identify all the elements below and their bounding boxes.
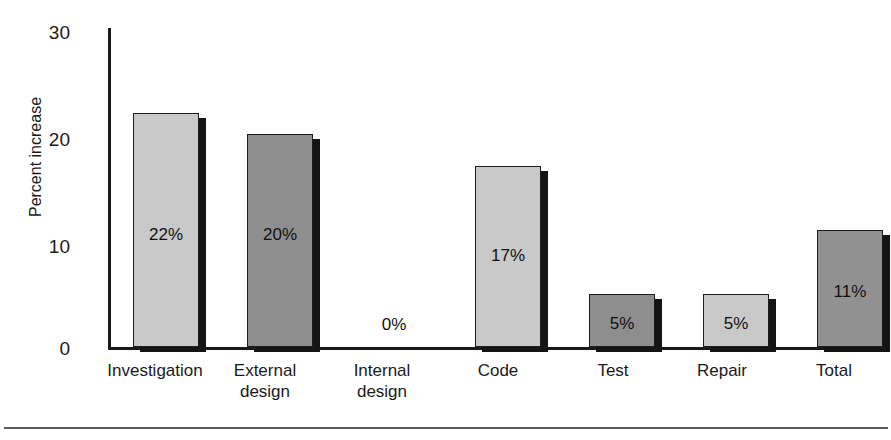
bar-value-total: 11% <box>818 283 882 300</box>
bar-group-test[interactable]: 5% <box>589 28 655 347</box>
x-label-code: Code <box>438 360 558 381</box>
bar-group-total[interactable]: 11% <box>817 28 883 347</box>
y-tick-label-20: 20 <box>24 130 70 149</box>
x-label-internal-design-line2: design <box>312 381 452 402</box>
bar-group-repair[interactable]: 5% <box>703 28 769 347</box>
x-label-repair-line1: Repair <box>662 360 782 381</box>
bar-group-internal-design[interactable]: 0% <box>361 28 427 347</box>
bar-group-external-design[interactable]: 20% <box>247 28 313 347</box>
x-label-total: Total <box>774 360 891 381</box>
x-label-total-line1: Total <box>774 360 891 381</box>
bar-value-investigation: 22% <box>134 226 198 243</box>
bar-code[interactable]: 17% <box>475 166 541 347</box>
y-tick-label-0: 0 <box>24 339 70 358</box>
x-label-test: Test <box>553 360 673 381</box>
y-tick-label-30: 30 <box>24 23 70 42</box>
bar-value-internal-design: 0% <box>361 316 427 333</box>
y-tick-label-10: 10 <box>24 237 70 256</box>
x-label-internal-design-line1: Internal <box>312 360 452 381</box>
x-label-repair: Repair <box>662 360 782 381</box>
x-label-code-line1: Code <box>438 360 558 381</box>
bar-chart-figure: Percent increase 30 20 10 0 22% 20% 0% <box>0 0 891 440</box>
bar-investigation[interactable]: 22% <box>133 113 199 347</box>
bar-test[interactable]: 5% <box>589 294 655 347</box>
bar-repair[interactable]: 5% <box>703 294 769 347</box>
bar-value-repair: 5% <box>704 315 768 332</box>
bar-external-design[interactable]: 20% <box>247 134 313 347</box>
bar-group-investigation[interactable]: 22% <box>133 28 199 347</box>
y-axis-title: Percent increase <box>27 57 45 257</box>
bar-group-code[interactable]: 17% <box>475 28 541 347</box>
plot-area: 22% 20% 0% 17% 5% <box>111 28 866 347</box>
x-label-test-line1: Test <box>553 360 673 381</box>
bar-value-external-design: 20% <box>248 226 312 243</box>
bar-value-test: 5% <box>590 315 654 332</box>
bar-value-code: 17% <box>476 247 540 264</box>
bottom-divider <box>4 427 888 429</box>
bar-total[interactable]: 11% <box>817 230 883 347</box>
x-label-internal-design: Internal design <box>312 360 452 402</box>
